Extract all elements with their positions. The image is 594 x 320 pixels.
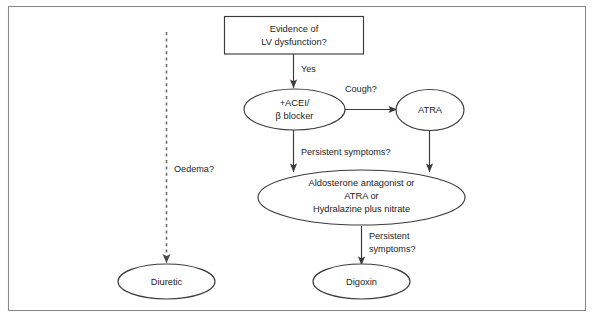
- node-secondline-line3: Hydralazine plus nitrate: [313, 204, 410, 214]
- node-acei-line2: β blocker: [276, 111, 314, 121]
- node-evidence-lv-dysfunction: Evidence of LV dysfunction?: [225, 17, 364, 55]
- node-evidence-line1: Evidence of: [270, 24, 319, 34]
- node-acei-line1: +ACEI/: [280, 98, 310, 108]
- node-digoxin: Digoxin: [313, 264, 410, 299]
- edge-label-persistent-symptoms-mid: Persistent symptoms?: [301, 147, 390, 157]
- edge-label-cough: Cough?: [345, 84, 377, 94]
- edge-label-persistent-symptoms-low-line1: Persistent: [369, 231, 410, 241]
- node-evidence-line2: LV dysfunction?: [261, 37, 326, 47]
- node-secondline-line2: ATRA or: [344, 191, 378, 201]
- edge-label-oedema: Oedema?: [174, 164, 214, 174]
- node-atra-label: ATRA: [418, 105, 443, 115]
- treatment-algorithm-diagram: Evidence of LV dysfunction? +ACEI/ β blo…: [0, 0, 594, 320]
- node-secondline-line1: Aldosterone antagonist or: [309, 178, 415, 188]
- node-diuretic: Diuretic: [118, 264, 215, 299]
- node-digoxin-label: Digoxin: [346, 277, 377, 287]
- flowchart-container: Evidence of LV dysfunction? +ACEI/ β blo…: [0, 0, 594, 320]
- node-second-line-therapy: Aldosterone antagonist or ATRA or Hydral…: [258, 170, 465, 225]
- node-diuretic-label: Diuretic: [151, 277, 183, 287]
- edge-label-yes: Yes: [301, 64, 316, 74]
- edge-label-persistent-symptoms-low-line2: symptoms?: [369, 244, 416, 254]
- node-atra: ATRA: [396, 90, 464, 131]
- node-acei-beta-blocker: +ACEI/ β blocker: [244, 89, 345, 130]
